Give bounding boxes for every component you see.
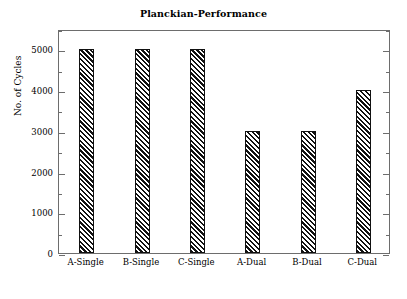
bar-c-dual — [356, 90, 371, 253]
bar-b-dual — [301, 131, 316, 253]
y-tick-major-left — [59, 255, 65, 256]
plot-area — [58, 30, 390, 254]
y-tick-label: 2000 — [3, 168, 53, 178]
y-tick-major-right — [383, 255, 389, 256]
bar-a-dual — [245, 131, 260, 253]
chart-figure: Planckian-Performance No. of Cycles 0100… — [0, 0, 407, 299]
chart-title: Planckian-Performance — [0, 8, 407, 19]
y-tick-label: 5000 — [3, 45, 53, 55]
y-tick-label: 0 — [3, 249, 53, 259]
y-tick-label: 1000 — [3, 208, 53, 218]
bars-group — [59, 31, 389, 253]
x-tick-label: C-Dual — [327, 257, 397, 267]
bar-a-single — [79, 49, 94, 253]
bar-b-single — [135, 49, 150, 253]
y-tick-label: 3000 — [3, 127, 53, 137]
bar-c-single — [190, 49, 205, 253]
y-tick-label: 4000 — [3, 86, 53, 96]
